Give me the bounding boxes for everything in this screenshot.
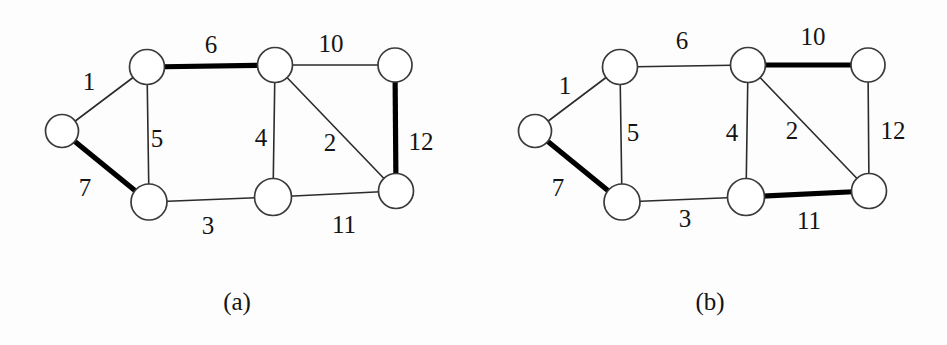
edge-label-12: 12 — [881, 118, 906, 143]
edge-label-4: 4 — [726, 120, 739, 145]
edge-2-line — [748, 65, 869, 191]
edge-label-7: 7 — [552, 175, 565, 200]
edge-4-line — [273, 65, 275, 197]
node-v-bot-right — [379, 174, 414, 209]
edge-label-1: 1 — [83, 69, 96, 94]
edge-label-6: 6 — [205, 32, 218, 57]
graph-panel-b: 1 7 5 6 3 4 10 2 11 12 (b) — [473, 0, 947, 345]
node-v-top-right — [378, 48, 412, 82]
node-v-bot-right — [852, 174, 887, 209]
node-v-bot-mid — [255, 179, 292, 216]
node-v-bot-left — [604, 184, 640, 220]
graph-panel-a: 1 7 5 6 3 4 10 2 11 12 (a) — [0, 0, 474, 345]
node-v-left — [519, 115, 552, 148]
node-v-top-left — [130, 50, 165, 85]
edge-label-5: 5 — [627, 120, 640, 145]
panel-caption-b: (b) — [473, 288, 947, 316]
edge-label-12: 12 — [409, 129, 434, 154]
edge-label-2: 2 — [786, 118, 799, 143]
edge-label-10: 10 — [801, 24, 826, 49]
edge-label-2: 2 — [324, 130, 337, 155]
node-v-bot-mid — [728, 179, 765, 216]
edge-6-line — [620, 65, 748, 67]
edge-5-line — [147, 67, 149, 202]
edge-label-3: 3 — [679, 206, 692, 231]
edge-12-line — [868, 65, 869, 191]
node-v-top-mid — [731, 48, 766, 83]
edge-label-11: 11 — [332, 212, 356, 237]
graph-a-canvas — [0, 0, 474, 260]
edge-4-line — [746, 65, 748, 197]
edge-label-10: 10 — [319, 31, 344, 56]
edge-label-6: 6 — [676, 28, 689, 53]
node-v-top-left — [603, 50, 638, 85]
figure-root: 1 7 5 6 3 4 10 2 11 12 (a) — [0, 0, 947, 345]
node-v-top-right — [851, 48, 885, 82]
panel-caption-a: (a) — [0, 288, 474, 316]
edge-label-1: 1 — [559, 73, 572, 98]
edge-12-line — [395, 65, 396, 191]
node-v-left — [46, 115, 79, 148]
node-v-bot-left — [131, 184, 167, 220]
edge-label-3: 3 — [202, 213, 215, 238]
graph-b-canvas — [473, 0, 947, 260]
edge-label-5: 5 — [151, 126, 164, 151]
edge-label-7: 7 — [79, 175, 92, 200]
edge-5-line — [620, 67, 622, 202]
edge-label-11: 11 — [797, 208, 821, 233]
edge-6-line — [147, 65, 275, 67]
node-v-top-mid — [258, 48, 293, 83]
edge-label-4: 4 — [255, 125, 268, 150]
